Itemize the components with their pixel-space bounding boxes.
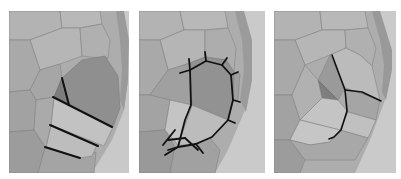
panel-2 bbox=[139, 11, 265, 173]
panel-1 bbox=[9, 11, 129, 173]
panel-3 bbox=[274, 11, 396, 173]
figure-canvas bbox=[0, 0, 401, 179]
